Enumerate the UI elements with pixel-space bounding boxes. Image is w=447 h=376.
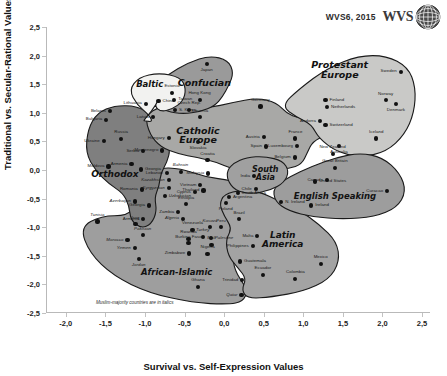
country-label: Ukraine: [84, 139, 99, 144]
country-label: Mexico: [314, 255, 328, 260]
country-label: Mali: [207, 236, 215, 241]
y-tick-label: -1,0: [27, 223, 40, 232]
x-tick-label: 2,0: [377, 319, 387, 328]
country-label: Malaysia: [187, 171, 205, 176]
country-label: Belarus: [91, 109, 106, 114]
country-label: Canada: [307, 178, 323, 183]
cluster-label-confucian: Confucian: [178, 78, 231, 88]
y-tick: [42, 199, 46, 200]
x-tick: [185, 313, 186, 317]
y-tick-label: -2,0: [27, 280, 40, 289]
x-tick-label: 0,5: [259, 319, 269, 328]
country-label: Lithuania: [123, 101, 141, 106]
country-label: Armenia: [111, 162, 128, 167]
country-label: Andorra: [300, 119, 316, 124]
country-label: Croatia: [200, 152, 215, 157]
x-tick-label: 2,5: [417, 319, 427, 328]
cluster-label-latin-america: Latin America: [262, 231, 303, 249]
y-tick: [42, 84, 46, 85]
country-label: Norway: [378, 92, 393, 97]
x-tick-label: -0,5: [178, 319, 191, 328]
country-label: N. Ireland: [285, 200, 305, 205]
country-label: United States: [319, 179, 346, 184]
country-label: Pakistan: [134, 227, 151, 232]
country-label: France: [288, 130, 302, 135]
country-label: Kyrgyzstan: [143, 186, 165, 191]
country-label: Philippines: [227, 244, 249, 249]
country-label: Guatemala: [244, 259, 266, 264]
country-label: Lebanon: [146, 171, 163, 176]
country-label: Czech Rep.: [178, 101, 201, 106]
cluster-label-protestant-europe: Protestant Europe: [311, 60, 368, 79]
country-label: Peru: [216, 219, 225, 224]
country-label: Great Britain: [322, 159, 347, 164]
cluster-label-baltic: Baltic: [136, 80, 163, 89]
y-tick: [42, 141, 46, 142]
x-tick: [224, 313, 225, 317]
country-label: Qatar: [226, 293, 237, 298]
country-label: Ethiopia: [178, 196, 194, 201]
x-tick: [343, 313, 344, 317]
country-label: Estonia: [164, 84, 179, 89]
cluster-label-english-speaking: English Speaking: [294, 191, 376, 200]
country-label: Jordan: [132, 263, 146, 268]
country-label: Turkey: [196, 228, 209, 233]
country-label: Ireland: [315, 203, 329, 208]
y-tick: [42, 113, 46, 114]
footnote: Muslim-majority countries are in italics: [96, 300, 174, 305]
cluster-label-south-asia: South Asia: [252, 166, 278, 182]
y-tick-label: -0,5: [27, 194, 40, 203]
country-label: Finland: [329, 98, 344, 103]
country-label: Austria: [246, 135, 260, 140]
country-label: Morocco: [106, 238, 123, 243]
country-label: South Africa: [242, 191, 266, 196]
country-label: Moldova: [88, 164, 105, 169]
y-tick-label: -1,5: [27, 251, 40, 260]
x-tick: [145, 313, 146, 317]
x-tick: [382, 313, 383, 317]
country-label: Luxembourg: [268, 144, 293, 149]
country-label: Hungary: [148, 136, 165, 141]
country-label: Japan: [201, 68, 213, 73]
country-label: New Zealand: [319, 145, 345, 150]
country-label: Bahrain: [173, 163, 188, 168]
country-label: Tunisia: [90, 213, 104, 218]
y-tick-label: 0,5: [30, 137, 40, 146]
x-tick: [422, 313, 423, 317]
y-tick-label: 2,5: [30, 23, 40, 32]
y-tick-label: 1,0: [30, 108, 40, 117]
country-label: Nigeria: [200, 245, 214, 250]
country-label: India: [240, 174, 250, 179]
x-tick: [264, 313, 265, 317]
cultural-map-figure: WVS6, 2015 WVS Traditional vs. Secular-R…: [0, 0, 447, 376]
x-tick: [105, 313, 106, 317]
country-label: Bulgaria: [86, 117, 103, 122]
x-tick-label: -2,0: [59, 319, 72, 328]
country-label: Slovenia: [191, 109, 208, 114]
country-label: Denmark: [387, 108, 405, 113]
country-label: Curacao: [366, 189, 383, 194]
x-tick-label: 1,0: [298, 319, 308, 328]
y-tick: [42, 313, 46, 314]
y-tick-label: -2,5: [27, 309, 40, 318]
y-tick-label: 0,0: [30, 166, 40, 175]
x-tick: [66, 313, 67, 317]
country-label: Romania: [120, 187, 138, 192]
country-label: Ecuador: [255, 266, 272, 271]
x-axis-title: Survival vs. Self-Expression Values: [0, 361, 447, 372]
y-tick-label: 1,5: [30, 80, 40, 89]
country-label: Yemen: [117, 246, 131, 251]
x-tick-label: 0,0: [219, 319, 229, 328]
country-label: Trinidad: [222, 278, 238, 283]
country-label: Azerbaijan: [109, 199, 130, 204]
country-label: Kosovo: [202, 219, 217, 224]
country-label: Ghana: [191, 278, 204, 283]
y-tick: [42, 170, 46, 171]
plot-area: 2,52,01,51,00,50,0-0,5-1,0-1,5-2,0-2,5-2…: [46, 27, 430, 313]
country-label: Latvia: [137, 115, 149, 120]
y-tick-label: 2,0: [30, 51, 40, 60]
country-label: Hong Kong: [188, 91, 210, 96]
country-label: Switzerland: [329, 123, 352, 128]
country-label: Brazil: [234, 211, 245, 216]
country-label: Algeria: [165, 216, 179, 221]
